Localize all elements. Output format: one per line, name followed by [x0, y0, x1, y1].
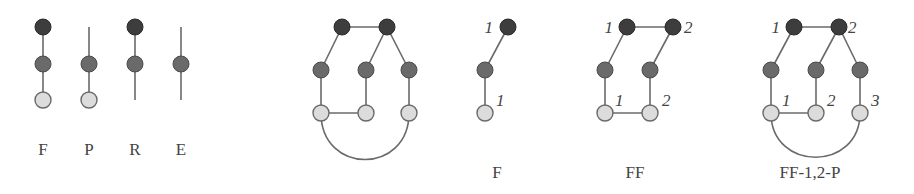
bottom-number: 1 [615, 91, 624, 110]
graph-ff-1-2-p: 1 2 1 2 3 FF-1,2-P [763, 18, 880, 182]
graph-label-ff-1-2-p: FF-1,2-P [780, 163, 841, 182]
legend-label-f: F [38, 140, 47, 159]
dark-node [35, 19, 51, 35]
legend-r: R [127, 19, 143, 159]
graph-label-ff: FF [626, 163, 645, 182]
mid-node [127, 56, 143, 72]
top-number: 1 [485, 18, 494, 37]
legend-p: P [81, 27, 97, 159]
legend-label-e: E [176, 140, 186, 159]
bottom-number: 1 [782, 91, 791, 110]
full-graph [313, 19, 417, 160]
bottom-number: 2 [662, 91, 671, 110]
top-number: 1 [605, 18, 614, 37]
legend-f: F [35, 19, 51, 159]
light-node [81, 92, 97, 108]
mid-node [35, 56, 51, 72]
top-number: 2 [848, 18, 857, 37]
bottom-number: 3 [870, 91, 880, 110]
graph-f: 1 1 F [477, 18, 516, 182]
legend-e: E [173, 27, 189, 159]
mid-node [81, 56, 97, 72]
mid-node [173, 56, 189, 72]
graph-label-f: F [492, 163, 501, 182]
legend-label-p: P [84, 140, 93, 159]
bottom-number: 1 [496, 91, 505, 110]
legend-label-r: R [129, 140, 141, 159]
dark-node [127, 19, 143, 35]
bottom-number: 2 [827, 91, 836, 110]
graph-ff: 1 2 1 2 FF [597, 18, 693, 182]
top-number: 2 [684, 18, 693, 37]
top-number: 1 [772, 18, 781, 37]
light-node [35, 92, 51, 108]
diagram-canvas: F P R E [0, 0, 914, 194]
